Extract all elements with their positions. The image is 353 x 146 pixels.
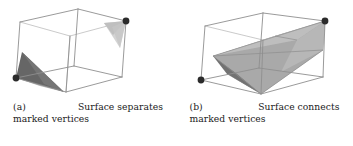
figure-container: (a) Surface separates marked vertices — [0, 0, 353, 146]
caption-b-label: (b) — [190, 101, 203, 113]
caption-b-line1: Surface connects — [258, 101, 339, 113]
cube-diagram-a — [0, 0, 176, 100]
marked-vertex-top-right-b — [321, 18, 328, 25]
caption-b: (b) Surface connects marked vertices — [190, 101, 340, 125]
caption-a: (a) Surface separates marked vertices — [13, 101, 163, 125]
subfigure-a: (a) Surface separates marked vertices — [0, 0, 176, 146]
caption-a-line2: marked vertices — [13, 113, 163, 125]
marked-vertex-bottom-left-b — [197, 77, 204, 84]
marked-vertex-top-right-a — [123, 18, 130, 25]
subfigure-b: (b) Surface connects marked vertices — [176, 0, 353, 146]
marked-vertex-bottom-left-a — [13, 75, 20, 82]
cube-diagram-b — [177, 0, 353, 100]
caption-b-line2: marked vertices — [190, 113, 340, 125]
surface-light-a — [104, 21, 126, 48]
caption-a-label: (a) — [13, 101, 26, 113]
caption-a-line1: Surface separates — [78, 101, 163, 113]
surface-dark-a — [16, 52, 64, 92]
